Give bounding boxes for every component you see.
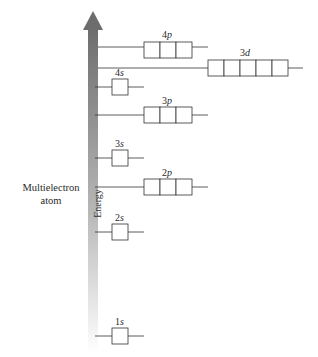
orbital-4s bbox=[95, 79, 144, 95]
orbital-label-4p: 4p bbox=[162, 29, 172, 40]
label-l: d bbox=[245, 47, 250, 58]
orbital-label-3s: 3s bbox=[115, 138, 124, 149]
orbital-2p bbox=[95, 179, 208, 195]
label-l: s bbox=[120, 138, 124, 149]
orbital-2s bbox=[95, 224, 144, 240]
orbital-label-1s: 1s bbox=[115, 316, 124, 327]
side-label-line1: Multielectron bbox=[6, 181, 96, 194]
orbital-label-4s: 4s bbox=[115, 67, 124, 78]
orbital-1s bbox=[95, 328, 144, 344]
orbital-3d bbox=[98, 60, 303, 76]
multielectron-atom-label: Multielectron atom bbox=[6, 181, 96, 207]
side-label-line2: atom bbox=[6, 194, 96, 207]
orbital-label-2s: 2s bbox=[115, 212, 124, 223]
label-l: s bbox=[120, 212, 124, 223]
label-l: s bbox=[120, 67, 124, 78]
orbital-energy-diagram bbox=[0, 0, 318, 357]
orbital-label-3d: 3d bbox=[240, 47, 250, 58]
label-l: p bbox=[167, 95, 172, 106]
label-l: p bbox=[167, 29, 172, 40]
orbital-label-2p: 2p bbox=[162, 167, 172, 178]
label-l: p bbox=[167, 167, 172, 178]
orbital-4p bbox=[98, 42, 208, 58]
label-l: s bbox=[120, 316, 124, 327]
orbital-3s bbox=[95, 150, 144, 166]
orbital-label-3p: 3p bbox=[162, 95, 172, 106]
orbital-3p bbox=[95, 107, 208, 123]
